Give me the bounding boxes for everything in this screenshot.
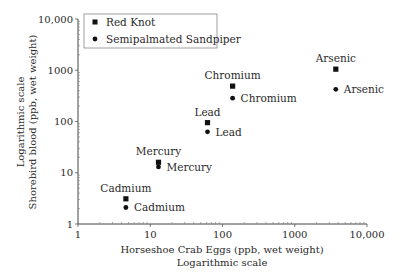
legend-label-sandpiper: Semipalmated Sandpiper	[106, 33, 242, 45]
y-tick-label: 100	[54, 116, 73, 127]
sandpiper-point-chromium	[230, 96, 235, 101]
sandpiper-label-arsenic: Arsenic	[343, 83, 384, 95]
y-tick-label: 10	[60, 167, 73, 178]
x-axis-title: Horseshoe Crab Eggs (ppb, wet weight) Lo…	[120, 244, 323, 268]
legend: Red Knot Semipalmated Sandpiper	[84, 14, 242, 48]
sandpiper-label-lead: Lead	[216, 126, 242, 138]
sandpiper-point-lead	[205, 129, 210, 134]
red-knot-label-lead: Lead	[194, 106, 220, 118]
sandpiper-label-cadmium: Cadmium	[134, 201, 185, 213]
x-tick-label: 10	[144, 229, 157, 240]
red-knot-point-mercury	[156, 160, 161, 165]
y-tick-label: 10,000	[38, 14, 73, 25]
scatter-chart: 1110101001001000100010,00010,000 Shorebi…	[0, 0, 401, 278]
sandpiper-point-arsenic	[333, 87, 338, 92]
sandpiper-label-chromium: Chromium	[241, 92, 297, 104]
red-knot-label-chromium: Chromium	[205, 69, 261, 81]
red-knot-point-chromium	[230, 84, 235, 89]
y-tick-label: 1000	[48, 65, 73, 76]
y-axis-sublabel: Logarithmic scale	[15, 77, 26, 168]
x-tick-label: 100	[213, 229, 232, 240]
red-knot-point-arsenic	[333, 67, 338, 72]
sandpiper-label-mercury: Mercury	[166, 161, 212, 173]
x-tick-label: 1	[75, 229, 81, 240]
red-knot-point-cadmium	[123, 196, 128, 201]
sandpiper-point-cadmium	[123, 205, 128, 210]
red-knot-label-mercury: Mercury	[136, 145, 182, 157]
y-axis-title: Shorebird blood (ppb, wet weight) Logari…	[15, 35, 38, 210]
legend-label-red-knot: Red Knot	[106, 16, 156, 28]
red-knot-point-lead	[205, 120, 210, 125]
x-axis-sublabel: Logarithmic scale	[177, 257, 268, 268]
sandpiper-point-mercury	[156, 165, 161, 170]
sandpiper-circle-icon	[93, 37, 98, 42]
red-knot-square-icon	[93, 20, 98, 25]
x-tick-label: 10,000	[350, 229, 385, 240]
y-tick-label: 1	[67, 219, 73, 230]
x-axis-label: Horseshoe Crab Eggs (ppb, wet weight)	[120, 244, 323, 255]
x-tick-label: 1000	[282, 229, 307, 240]
red-knot-label-cadmium: Cadmium	[100, 182, 151, 194]
y-axis-label: Shorebird blood (ppb, wet weight)	[27, 35, 38, 210]
data-points: CadmiumCadmiumMercuryMercuryLeadLeadChro…	[100, 52, 384, 213]
red-knot-label-arsenic: Arsenic	[315, 52, 356, 64]
